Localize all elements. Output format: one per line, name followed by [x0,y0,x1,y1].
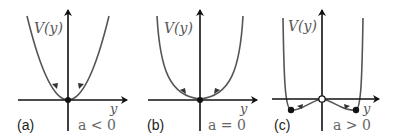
x-axis-label-a: y [109,101,118,116]
stable-fixed-point-left [288,107,294,113]
panel-label-c: (c) [274,117,290,133]
stable-fixed-point-right [353,107,359,113]
y-axis-label-c: V(y) [288,18,317,34]
x-axis-label-b: y [239,101,248,116]
panel-b: V(y) y (b) a = 0 [147,10,257,133]
stable-fixed-point [197,97,203,103]
panel-c: V(y) y (c) a > 0 [272,10,379,133]
y-axis-label-b: V(y) [164,20,193,36]
panel-label-b: (b) [147,117,164,133]
unstable-fixed-point [319,96,325,102]
x-axis-label-c: y [362,101,371,116]
y-axis-label-a: V(y) [34,20,63,36]
potential-figure: V(y) y (a) a < 0 V(y) y (b) a = 0 V(y) y… [0,0,400,140]
panel-a: V(y) y (a) a < 0 [17,10,127,133]
stable-fixed-point [65,97,71,103]
condition-a: a < 0 [78,117,116,133]
panel-label-a: (a) [17,117,34,133]
condition-b: a = 0 [208,117,246,133]
condition-c: a > 0 [333,117,371,133]
